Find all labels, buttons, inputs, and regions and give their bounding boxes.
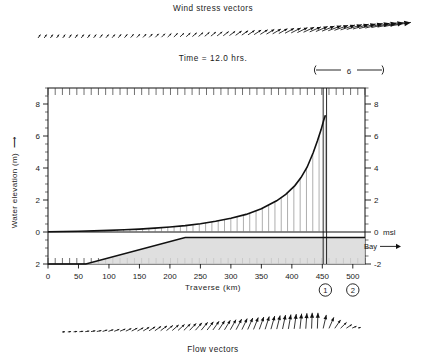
svg-text:300: 300 <box>224 272 238 281</box>
figure-panel: Wind stress vectors Time = 12.0 hrs. 6 <box>0 0 426 360</box>
y-axis-label-text: Water elevation (m) <box>10 153 19 228</box>
scale-bar-value: 6 <box>347 67 352 76</box>
svg-text:8: 8 <box>36 100 41 109</box>
vector-scale-bar: 6 <box>314 63 383 77</box>
x-axis-label: Traverse (km) <box>0 283 426 292</box>
bay-label: Bay <box>364 242 377 251</box>
svg-text:100: 100 <box>102 272 116 281</box>
x-axis: 050100150200250300350400450500 <box>46 264 360 281</box>
bay-annotation: Bay <box>364 242 401 251</box>
flow-vectors-svg <box>0 300 426 344</box>
elevation-hatching <box>67 115 325 232</box>
svg-text:200: 200 <box>163 272 177 281</box>
flow-vector-field <box>0 300 426 344</box>
y-axis-arrow-icon: ⟶ <box>10 137 19 151</box>
svg-text:2: 2 <box>374 196 379 205</box>
msl-label: msl <box>383 228 396 237</box>
svg-text:0: 0 <box>46 272 51 281</box>
svg-text:350: 350 <box>255 272 269 281</box>
svg-text:50: 50 <box>74 272 83 281</box>
svg-text:6: 6 <box>374 132 379 141</box>
water-elevation-curve <box>48 115 325 231</box>
svg-text:0: 0 <box>374 228 379 237</box>
y-axis-left: 864202 <box>36 88 48 269</box>
svg-text:450: 450 <box>316 272 330 281</box>
svg-text:250: 250 <box>194 272 208 281</box>
wind-stress-vector-field <box>0 12 426 44</box>
water-elevation-plot: 6 864202 86420-2 05010015020025030035 <box>0 58 426 298</box>
y-axis-label: Water elevation (m) ⟶ <box>10 113 19 253</box>
svg-text:4: 4 <box>374 164 379 173</box>
svg-text:8: 8 <box>374 100 379 109</box>
svg-text:500: 500 <box>346 272 360 281</box>
svg-text:6: 6 <box>36 132 41 141</box>
seabed-region <box>48 238 365 264</box>
svg-text:2: 2 <box>36 260 41 269</box>
svg-text:2: 2 <box>36 196 41 205</box>
svg-text:150: 150 <box>133 272 147 281</box>
flow-vectors-title: Flow vectors <box>0 345 426 354</box>
svg-text:4: 4 <box>36 164 41 173</box>
svg-text:0: 0 <box>36 228 41 237</box>
svg-text:400: 400 <box>285 272 299 281</box>
wind-vectors-svg <box>0 12 426 44</box>
svg-text:-2: -2 <box>374 260 382 269</box>
